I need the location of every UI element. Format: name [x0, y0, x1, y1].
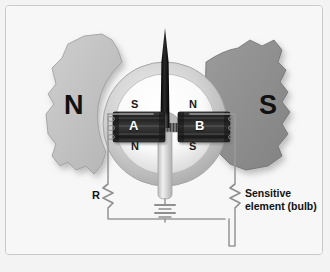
- magnet-a: [113, 112, 165, 142]
- screenshot-canvas: N S S N N S A B R Sensitive element (bul…: [0, 0, 330, 272]
- rotor-polarity-right-top: N: [189, 99, 197, 110]
- rotor-polarity-left-bottom: N: [131, 141, 139, 152]
- magnet-b-label: B: [195, 119, 204, 132]
- magnet-sensor-diagram: [6, 6, 323, 255]
- diagram-frame: N S S N N S A B R Sensitive element (bul…: [5, 5, 323, 255]
- sensitive-element-label: Sensitive element (bulb): [245, 187, 317, 213]
- north-pole-label: N: [64, 92, 84, 119]
- resistor-label: R: [92, 189, 100, 201]
- sensitive-element-label-line2: element (bulb): [245, 200, 317, 213]
- sensitive-element-label-line1: Sensitive: [245, 187, 317, 200]
- rotor-polarity-left-top: S: [131, 99, 138, 110]
- rotor-polarity-right-bottom: S: [189, 141, 196, 152]
- magnet-a-label: A: [129, 119, 138, 132]
- south-pole-label: S: [259, 92, 277, 119]
